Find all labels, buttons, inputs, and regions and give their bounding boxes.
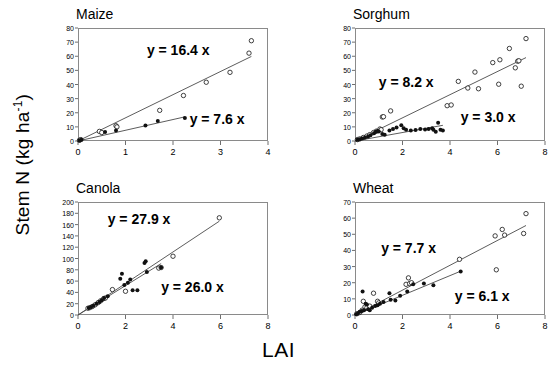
- x-tick-label: 2: [400, 147, 405, 157]
- data-point-closed: [145, 270, 149, 274]
- data-point-open: [476, 87, 480, 91]
- y-tick-label: 10: [327, 123, 351, 130]
- data-point-closed: [122, 283, 126, 287]
- x-tick-label: 8: [265, 321, 270, 331]
- data-point-open: [228, 70, 232, 74]
- y-tick-label: 20: [50, 300, 74, 307]
- y-tick-label: 10: [50, 123, 74, 130]
- y-tick-label: 40: [50, 81, 74, 88]
- data-point-closed: [436, 121, 440, 125]
- data-point-open: [519, 84, 523, 88]
- y-tick-label: 30: [327, 95, 351, 102]
- data-point-closed: [362, 308, 366, 312]
- data-point-open: [217, 216, 221, 220]
- x-tick-label: 8: [542, 147, 547, 157]
- x-tick-label: 6: [495, 321, 500, 331]
- y-tick-label: 80: [327, 25, 351, 32]
- data-point-closed: [418, 127, 422, 131]
- y-axis-label: Stem N (kg ha-1): [0, 0, 46, 330]
- data-point-closed: [422, 282, 426, 286]
- y-tick-label: 20: [50, 109, 74, 116]
- data-point-closed: [414, 128, 418, 132]
- panel-sorghum: Sorghum0102030405060708002468y = 8.2 xy …: [325, 6, 557, 167]
- data-point-open: [371, 291, 375, 295]
- y-tick-label: 40: [327, 81, 351, 88]
- x-tick-label: 6: [495, 147, 500, 157]
- y-tick-label: 0: [50, 138, 74, 145]
- data-point-closed: [398, 294, 402, 298]
- x-tick-label: 4: [447, 321, 452, 331]
- x-tick-label: 2: [123, 321, 128, 331]
- data-point-open: [466, 86, 470, 90]
- y-axis-label-superscript: -1: [11, 101, 25, 112]
- data-point-closed: [126, 281, 130, 285]
- data-point-closed: [431, 283, 435, 287]
- x-tick-label: 0: [75, 321, 80, 331]
- data-point-open: [110, 287, 114, 291]
- panel-canola: Canola02040608010012014016018020002468y …: [48, 180, 282, 341]
- figure-stem-n-vs-lai: Stem N (kg ha-1) Maize010203040506070800…: [0, 0, 557, 372]
- y-tick-label: 60: [50, 53, 74, 60]
- data-point-open: [491, 60, 495, 64]
- y-tick-label: 20: [327, 279, 351, 286]
- x-tick-label: 6: [218, 321, 223, 331]
- data-point-open: [449, 103, 453, 107]
- y-axis-label-tail: ): [13, 94, 34, 101]
- data-point-open: [521, 231, 525, 235]
- data-point-open: [496, 82, 500, 86]
- x-tick-label: 8: [542, 321, 547, 331]
- x-tick-label: 1: [123, 147, 128, 157]
- data-point-open: [171, 254, 175, 258]
- data-point-closed: [361, 290, 365, 294]
- data-point-open: [457, 257, 461, 261]
- plot-graphics: [48, 180, 282, 341]
- data-point-open: [524, 36, 528, 40]
- data-point-closed: [427, 127, 431, 131]
- y-tick-label: 60: [327, 53, 351, 60]
- y-tick-label: 200: [50, 199, 74, 206]
- data-point-open: [406, 276, 410, 280]
- data-point-closed: [79, 138, 83, 142]
- data-point-closed: [114, 129, 118, 133]
- data-point-closed: [365, 303, 369, 307]
- data-point-closed: [131, 288, 135, 292]
- data-point-open: [493, 234, 497, 238]
- data-point-closed: [102, 296, 106, 300]
- x-tick-label: 3: [218, 147, 223, 157]
- data-point-closed: [409, 128, 413, 132]
- y-tick-label: 50: [327, 67, 351, 74]
- y-tick-label: 0: [327, 312, 351, 319]
- plot-graphics: [325, 180, 557, 341]
- y-tick-label: 120: [50, 244, 74, 251]
- data-point-closed: [120, 272, 124, 276]
- x-axis-label: LAI: [0, 338, 557, 362]
- data-point-open: [494, 268, 498, 272]
- data-point-closed: [383, 133, 387, 137]
- data-point-closed: [159, 266, 163, 270]
- plot-graphics: [325, 6, 557, 167]
- y-tick-label: 70: [327, 199, 351, 206]
- y-tick-label: 0: [50, 312, 74, 319]
- equation-annotation: y = 27.9 x: [108, 211, 171, 227]
- data-point-open: [513, 66, 517, 70]
- data-point-closed: [156, 119, 160, 123]
- data-point-open: [524, 211, 528, 215]
- data-point-closed: [391, 127, 395, 131]
- data-point-closed: [378, 302, 382, 306]
- y-tick-label: 30: [327, 263, 351, 270]
- data-point-open: [517, 59, 521, 63]
- y-tick-label: 50: [327, 231, 351, 238]
- panel-maize: Maize0102030405060708001234y = 16.4 xy =…: [48, 6, 282, 167]
- data-point-open: [456, 79, 460, 83]
- y-tick-label: 40: [327, 247, 351, 254]
- data-point-open: [115, 125, 119, 129]
- y-tick-label: 20: [327, 109, 351, 116]
- equation-annotation: y = 6.1 x: [455, 288, 510, 304]
- data-point-open: [498, 58, 502, 62]
- y-tick-label: 30: [50, 95, 74, 102]
- data-point-open: [507, 46, 511, 50]
- data-point-closed: [434, 130, 438, 134]
- data-point-closed: [368, 133, 372, 137]
- data-point-open: [500, 227, 504, 231]
- data-point-closed: [393, 298, 397, 302]
